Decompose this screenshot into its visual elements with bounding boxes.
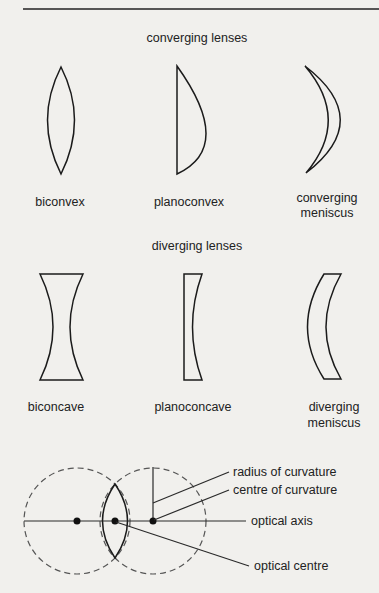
planoconcave-label: planoconcave xyxy=(154,400,231,414)
diverging-meniscus-label-2: meniscus xyxy=(308,416,361,430)
radius-of-curvature-label: radius of curvature xyxy=(233,465,337,479)
diverging-lenses-title: diverging lenses xyxy=(152,239,242,253)
optical-centre-label: optical centre xyxy=(254,559,328,573)
planoconcave-lens-shape xyxy=(184,274,202,380)
curvature-diagram: radius of curvature centre of curvature … xyxy=(24,465,337,574)
planoconvex-lens-shape xyxy=(177,66,206,174)
diverging-meniscus-lens-shape xyxy=(308,274,342,379)
centre-of-curvature-dot xyxy=(150,518,157,525)
converging-meniscus-label-2: meniscus xyxy=(301,206,354,220)
converging-meniscus-label-1: converging xyxy=(296,191,357,205)
centre-leader xyxy=(154,490,229,520)
centre-of-curvature-label: centre of curvature xyxy=(233,483,337,497)
radius-leader xyxy=(153,472,229,503)
converging-lenses-title: converging lenses xyxy=(147,31,248,45)
biconcave-label: biconcave xyxy=(28,400,84,414)
biconvex-lens-shape xyxy=(48,67,75,174)
planoconvex-label: planoconvex xyxy=(154,195,225,209)
lens-types-diagram: converging lenses biconvex planoconvex c… xyxy=(0,0,379,593)
biconcave-lens-shape xyxy=(40,274,83,380)
optical-centre-dot xyxy=(112,518,119,525)
optical-centre-leader xyxy=(116,522,249,566)
left-centre-dot xyxy=(74,518,81,525)
converging-meniscus-lens-shape xyxy=(305,66,340,173)
biconvex-label: biconvex xyxy=(35,195,85,209)
optical-axis-label: optical axis xyxy=(251,514,313,528)
diverging-meniscus-label-1: diverging xyxy=(309,400,360,414)
